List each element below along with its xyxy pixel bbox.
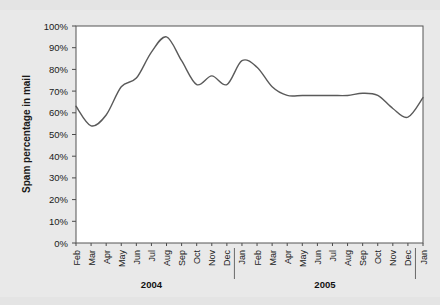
year-group-label: 2005 xyxy=(314,279,336,290)
plot-area-background xyxy=(76,26,423,243)
x-tick-label: Mar xyxy=(268,250,278,266)
x-tick-label: Jun xyxy=(313,250,323,265)
x-tick-label: Jul xyxy=(147,250,157,262)
year-group-label: 2004 xyxy=(141,279,163,290)
x-tick-label: Jun xyxy=(132,250,142,265)
y-tick-label: 90% xyxy=(49,42,69,53)
x-tick-label: Mar xyxy=(87,250,97,266)
x-tick-label: Apr xyxy=(102,250,112,264)
x-tick-label: Jan xyxy=(237,250,247,265)
x-tick-label: Aug xyxy=(343,250,353,266)
x-tick-label: Oct xyxy=(192,250,202,265)
y-axis-ticks xyxy=(72,26,76,243)
y-tick-label: 80% xyxy=(49,64,69,75)
y-axis-tick-labels: 0%10%20%30%40%50%60%70%80%90%100% xyxy=(44,21,69,249)
x-tick-label: Oct xyxy=(373,250,383,265)
x-tick-label: Feb xyxy=(72,250,82,266)
x-axis-tick-labels: FebMarAprMayJunJulAugSepOctNovDecJanFebM… xyxy=(72,250,429,268)
x-tick-label: Sep xyxy=(177,250,187,266)
spam-percentage-line-chart: 0%10%20%30%40%50%60%70%80%90%100% FebMar… xyxy=(0,0,440,305)
y-tick-label: 100% xyxy=(44,21,69,32)
x-tick-label: Nov xyxy=(388,250,398,267)
x-tick-label: Sep xyxy=(358,250,368,266)
x-tick-label: Dec xyxy=(403,250,413,267)
x-tick-label: Nov xyxy=(207,250,217,267)
y-tick-label: 20% xyxy=(49,194,69,205)
y-tick-label: 50% xyxy=(49,129,69,140)
x-tick-label: Dec xyxy=(222,250,232,267)
y-tick-label: 40% xyxy=(49,151,69,162)
y-tick-label: 30% xyxy=(49,172,69,183)
x-tick-label: Jan xyxy=(419,250,429,265)
y-tick-label: 60% xyxy=(49,107,69,118)
x-tick-label: Feb xyxy=(253,250,263,266)
x-tick-label: Apr xyxy=(283,250,293,264)
x-tick-label: Aug xyxy=(162,250,172,266)
y-axis-title: Spam percentage in mail xyxy=(21,75,32,193)
y-tick-label: 70% xyxy=(49,86,69,97)
x-tick-label: May xyxy=(298,250,308,268)
chart-figure: 0%10%20%30%40%50%60%70%80%90%100% FebMar… xyxy=(0,0,440,305)
y-tick-label: 0% xyxy=(54,238,68,249)
x-tick-label: Jul xyxy=(328,250,338,262)
y-tick-label: 10% xyxy=(49,216,69,227)
x-tick-label: May xyxy=(117,250,127,268)
